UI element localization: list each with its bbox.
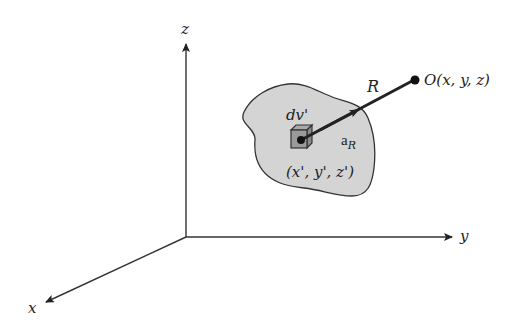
unit-vector-subscript: R xyxy=(347,139,356,152)
source-point-label: (x', y', z') xyxy=(286,163,354,181)
coordinate-axes xyxy=(46,44,452,302)
field-point-label: O(x, y, z) xyxy=(424,71,490,89)
x-axis-label: x xyxy=(28,299,37,317)
y-axis-label: y xyxy=(459,227,469,245)
field-geometry-diagram: z y x dv' R aR (x', y', z') O(x, y, z) xyxy=(0,0,518,327)
source-point-dot xyxy=(297,136,305,144)
volume-element-label: dv' xyxy=(286,106,308,124)
field-point-dot xyxy=(411,76,420,85)
distance-label: R xyxy=(366,77,379,96)
x-axis xyxy=(46,237,186,302)
z-axis-label: z xyxy=(180,20,189,38)
